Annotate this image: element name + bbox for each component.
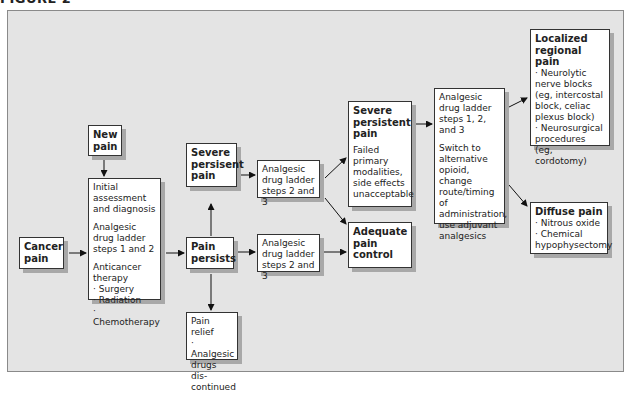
node-title: control <box>353 249 407 261</box>
node-initial-assessment: Initial assessment and diagnosis Analges… <box>88 178 161 300</box>
node-text: and diagnosis <box>93 204 156 215</box>
node-adequate-pain-control: Adequate pain control <box>348 222 412 268</box>
node-ladder-steps-1-2-3: Analgesic drug ladder steps 1, 2, and 3 … <box>434 88 505 224</box>
node-title: Diffuse pain <box>535 206 603 218</box>
node-text: route/timing of <box>439 187 500 209</box>
node-text: continued <box>191 382 233 393</box>
node-title: Pain <box>191 241 229 253</box>
node-text: steps 2 and 3 <box>262 260 315 282</box>
node-title: persists <box>191 253 229 265</box>
node-text: Pain relief <box>191 316 233 338</box>
node-pain-relief: Pain relief · Analgesic drugs dis- conti… <box>186 312 238 360</box>
node-title: pain <box>93 141 117 153</box>
node-text: · Chemical <box>535 229 603 240</box>
node-text: modalities, <box>353 167 407 178</box>
node-text: hypophysectomy <box>535 240 603 251</box>
node-text: · Radiation <box>93 295 156 306</box>
node-text: side effects <box>353 178 407 189</box>
node-cancer-pain: Cancer pain <box>19 237 64 269</box>
node-text: steps 1, 2, <box>439 114 500 125</box>
node-text: Analgesic <box>262 164 315 175</box>
node-diffuse-pain: Diffuse pain · Nitrous oxide · Chemical … <box>530 202 608 254</box>
node-title: regional pain <box>535 45 605 68</box>
node-text: administration, <box>439 209 500 220</box>
node-text: (eg, intercostal <box>535 90 605 101</box>
node-title: Localized <box>535 33 605 45</box>
node-text: alternative <box>439 154 500 165</box>
node-ladder-steps-2-3-bottom: Analgesic drug ladder steps 2 and 3 <box>257 234 320 272</box>
figure-title: FIGURE 2 <box>0 0 71 6</box>
node-title: Cancer <box>24 241 59 253</box>
node-title: Severe <box>353 105 407 117</box>
node-text: · Neurolytic <box>535 68 605 79</box>
node-text: Switch to <box>439 143 500 154</box>
node-text: and 3 <box>439 125 500 136</box>
node-severe-persistent-mid: Severe persistent pain Failed primary mo… <box>348 101 412 207</box>
node-text: steps 1 and 2 <box>93 244 156 255</box>
node-text: drug ladder <box>262 175 315 186</box>
node-text: Analgesic <box>439 92 500 103</box>
node-text: · Nitrous oxide <box>535 218 603 229</box>
node-title: persistent <box>353 117 407 129</box>
node-text: use adjuvant <box>439 220 500 231</box>
node-title: Adequate <box>353 226 407 238</box>
node-text: analgesics <box>439 231 500 242</box>
node-text: · Chemotherapy <box>93 306 156 328</box>
node-text: block, celiac <box>535 101 605 112</box>
node-text: Analgesic <box>93 222 156 233</box>
node-text: unacceptable <box>353 189 407 200</box>
node-text: · Surgery <box>93 284 156 295</box>
node-text: · Neurosurgical <box>535 123 605 134</box>
node-text: drug ladder <box>93 233 156 244</box>
node-text: (eg, cordotomy) <box>535 145 605 167</box>
node-title: Severe <box>191 147 232 159</box>
node-title: New <box>93 129 117 141</box>
node-text: Anticancer <box>93 262 156 273</box>
node-text: drug ladder <box>439 103 500 114</box>
node-text: primary <box>353 156 407 167</box>
node-title: persisent <box>191 159 232 171</box>
node-title: pain <box>24 253 59 265</box>
node-text: · Analgesic <box>191 338 233 360</box>
node-localized-regional-pain: Localized regional pain · Neurolytic ner… <box>530 29 610 146</box>
node-text: Analgesic <box>262 238 315 249</box>
node-text: opioid, change <box>439 165 500 187</box>
node-pain-persists: Pain persists <box>186 237 234 269</box>
node-text: therapy <box>93 273 156 284</box>
node-ladder-steps-2-3-top: Analgesic drug ladder steps 2 and 3 <box>257 160 320 198</box>
node-title: pain <box>353 238 407 250</box>
node-text: drug ladder <box>262 249 315 260</box>
node-text: procedures <box>535 134 605 145</box>
node-severe-persistent-left: Severe persisent pain <box>186 143 237 187</box>
node-text: plexus block) <box>535 112 605 123</box>
node-title: pain <box>353 128 407 140</box>
node-text: nerve blocks <box>535 79 605 90</box>
node-text: Failed <box>353 145 407 156</box>
node-title: pain <box>191 170 232 182</box>
node-text: Initial <box>93 182 156 193</box>
node-text: assessment <box>93 193 156 204</box>
node-text: steps 2 and 3 <box>262 186 315 208</box>
node-text: drugs dis- <box>191 360 233 382</box>
node-new-pain: New pain <box>88 125 122 156</box>
